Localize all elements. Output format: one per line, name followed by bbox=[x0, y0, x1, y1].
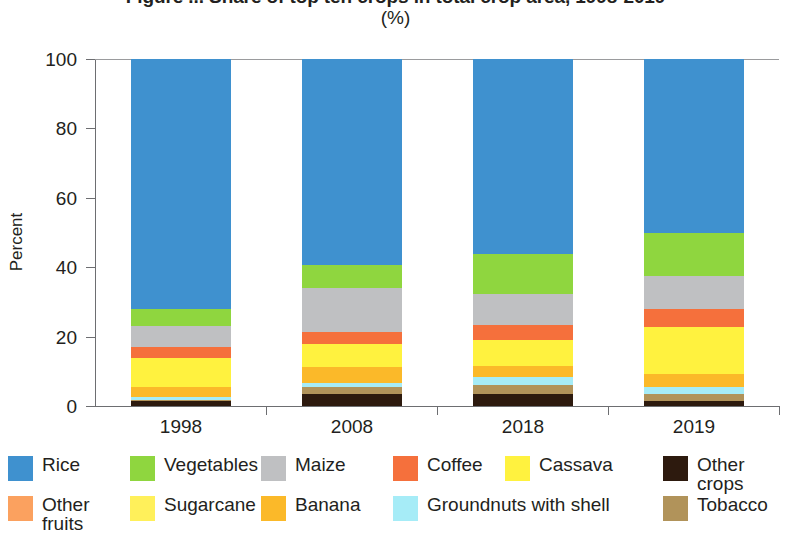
bar-segment-rice[interactable] bbox=[644, 59, 744, 233]
bar-segment-cassava[interactable] bbox=[302, 344, 402, 367]
y-tick-label: 40 bbox=[56, 258, 77, 277]
x-tick bbox=[608, 406, 609, 415]
bar-segment-rice[interactable] bbox=[473, 59, 573, 254]
legend-item-tobacco[interactable]: Tobacco bbox=[663, 495, 768, 521]
x-tick-label: 1998 bbox=[160, 416, 202, 438]
bar-2008[interactable] bbox=[302, 59, 402, 406]
bar-segment-banana[interactable] bbox=[131, 387, 231, 397]
y-tick bbox=[86, 59, 95, 60]
bar-segment-cassava[interactable] bbox=[131, 358, 231, 387]
bar-segment-maize[interactable] bbox=[473, 294, 573, 325]
y-tick bbox=[86, 128, 95, 129]
bar-2019[interactable] bbox=[644, 59, 744, 406]
chart-legend: RiceVegetablesMaizeCoffeeCassavaOther cr… bbox=[8, 455, 791, 533]
legend-item-rice[interactable]: Rice bbox=[8, 455, 80, 481]
legend-swatch-icon bbox=[261, 496, 286, 521]
bar-segment-vegetables[interactable] bbox=[131, 309, 231, 326]
y-tick bbox=[86, 267, 95, 268]
x-tick-label: 2018 bbox=[502, 416, 544, 438]
bar-2018[interactable] bbox=[473, 59, 573, 406]
bar-segment-groundnuts-with-shell[interactable] bbox=[131, 397, 231, 400]
bar-segment-other-crops[interactable] bbox=[131, 401, 231, 406]
bar-segment-rice[interactable] bbox=[131, 59, 231, 309]
bar-segment-banana[interactable] bbox=[473, 366, 573, 377]
bar-1998[interactable] bbox=[131, 59, 231, 406]
legend-item-banana[interactable]: Banana bbox=[261, 495, 361, 521]
bar-segment-tobacco[interactable] bbox=[644, 394, 744, 401]
legend-item-other-fruits[interactable]: Other fruits bbox=[8, 495, 90, 534]
bar-segment-tobacco[interactable] bbox=[302, 387, 402, 394]
bar-segment-tobacco[interactable] bbox=[473, 385, 573, 394]
legend-item-vegetables[interactable]: Vegetables bbox=[130, 455, 258, 481]
y-tick-label: 0 bbox=[66, 397, 77, 416]
legend-label: Other fruits bbox=[42, 495, 90, 534]
legend-swatch-icon bbox=[8, 496, 33, 521]
bar-segment-banana[interactable] bbox=[644, 374, 744, 387]
legend-swatch-icon bbox=[130, 496, 155, 521]
bar-segment-groundnuts-with-shell[interactable] bbox=[302, 383, 402, 387]
y-tick bbox=[86, 406, 95, 407]
legend-label: Rice bbox=[42, 455, 80, 474]
legend-item-sugarcane[interactable]: Sugarcane bbox=[130, 495, 256, 521]
legend-label: Vegetables bbox=[164, 455, 258, 474]
bar-segment-groundnuts-with-shell[interactable] bbox=[644, 387, 744, 394]
legend-swatch-icon bbox=[393, 456, 418, 481]
legend-swatch-icon bbox=[261, 456, 286, 481]
legend-label: Maize bbox=[295, 455, 346, 474]
y-axis-title: Percent bbox=[7, 162, 27, 322]
legend-swatch-icon bbox=[663, 496, 688, 521]
legend-label: Sugarcane bbox=[164, 495, 256, 514]
legend-item-groundnuts-with-shell[interactable]: Groundnuts with shell bbox=[393, 495, 610, 521]
x-tick bbox=[437, 406, 438, 415]
bar-segment-other-crops[interactable] bbox=[302, 394, 402, 406]
legend-swatch-icon bbox=[663, 456, 688, 481]
legend-label: Tobacco bbox=[697, 495, 768, 514]
legend-label: Cassava bbox=[539, 455, 613, 474]
legend-swatch-icon bbox=[393, 496, 418, 521]
legend-item-coffee[interactable]: Coffee bbox=[393, 455, 483, 481]
x-tick-label: 2019 bbox=[673, 416, 715, 438]
y-tick-label: 20 bbox=[56, 327, 77, 346]
bar-segment-vegetables[interactable] bbox=[473, 254, 573, 294]
bar-segment-coffee[interactable] bbox=[302, 332, 402, 344]
legend-item-maize[interactable]: Maize bbox=[261, 455, 346, 481]
bar-segment-banana[interactable] bbox=[302, 367, 402, 383]
plot-area bbox=[95, 59, 778, 406]
y-tick-label: 60 bbox=[56, 188, 77, 207]
legend-label: Coffee bbox=[427, 455, 483, 474]
legend-swatch-icon bbox=[130, 456, 155, 481]
legend-swatch-icon bbox=[505, 456, 530, 481]
bar-segment-coffee[interactable] bbox=[131, 347, 231, 358]
legend-item-other-crops[interactable]: Other crops bbox=[663, 455, 791, 494]
bar-segment-coffee[interactable] bbox=[644, 309, 744, 327]
x-tick bbox=[266, 406, 267, 415]
bar-segment-rice[interactable] bbox=[302, 59, 402, 265]
legend-item-cassava[interactable]: Cassava bbox=[505, 455, 613, 481]
bar-segment-coffee[interactable] bbox=[473, 325, 573, 340]
y-tick bbox=[86, 337, 95, 338]
bar-segment-maize[interactable] bbox=[644, 276, 744, 309]
y-tick-label: 100 bbox=[45, 50, 77, 69]
legend-label: Groundnuts with shell bbox=[427, 495, 610, 514]
bar-segment-vegetables[interactable] bbox=[644, 233, 744, 276]
bar-segment-maize[interactable] bbox=[131, 326, 231, 347]
bar-segment-cassava[interactable] bbox=[473, 340, 573, 366]
bar-segment-maize[interactable] bbox=[302, 288, 402, 332]
bar-segment-groundnuts-with-shell[interactable] bbox=[473, 377, 573, 385]
y-tick-label: 80 bbox=[56, 119, 77, 138]
legend-label: Banana bbox=[295, 495, 361, 514]
bar-segment-other-crops[interactable] bbox=[473, 394, 573, 406]
x-tick bbox=[779, 406, 780, 415]
chart-subtitle: (%) bbox=[0, 7, 791, 29]
bar-segment-other-crops[interactable] bbox=[644, 401, 744, 406]
x-tick-label: 2008 bbox=[331, 416, 373, 438]
bar-segment-cassava[interactable] bbox=[644, 327, 744, 374]
legend-label: Other crops bbox=[697, 455, 791, 494]
legend-swatch-icon bbox=[8, 456, 33, 481]
bar-segment-vegetables[interactable] bbox=[302, 265, 402, 288]
y-tick bbox=[86, 198, 95, 199]
bar-segment-tobacco[interactable] bbox=[131, 400, 231, 401]
